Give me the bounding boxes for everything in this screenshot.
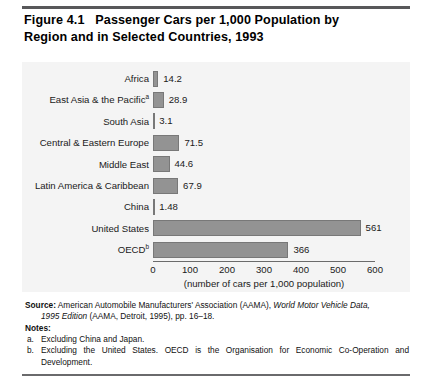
x-axis-tick-label: 0 bbox=[150, 263, 155, 276]
bar-category-label: China bbox=[124, 196, 153, 217]
x-axis-tick-label: 300 bbox=[256, 263, 272, 276]
bar-row: Middle East44.6 bbox=[22, 154, 410, 175]
bar-category-label: Middle East bbox=[99, 154, 153, 175]
bar-value-label: 14.2 bbox=[163, 71, 182, 87]
bar-wrapper: 28.9 bbox=[153, 92, 164, 108]
top-rule bbox=[22, 6, 410, 9]
bar-value-label: 44.6 bbox=[175, 156, 194, 172]
bar-category-label: United States bbox=[91, 218, 153, 239]
x-axis-tick-label: 600 bbox=[367, 263, 383, 276]
note-text: Excluding the United States. OECD is the… bbox=[41, 345, 409, 366]
bar-rows: Africa14.2East Asia & the Pacifica28.9So… bbox=[22, 68, 410, 261]
footnote-marker: a bbox=[145, 93, 149, 100]
bar-row: China1.48 bbox=[22, 196, 410, 217]
source-line-1: Source: American Automobile Manufacturer… bbox=[25, 300, 409, 311]
x-axis-tick-label: 100 bbox=[182, 263, 198, 276]
source-line-2: 1995 Edition (AAMA, Detroit, 1995), pp. … bbox=[25, 311, 409, 322]
bar bbox=[153, 156, 170, 172]
bar-row: South Asia3.1 bbox=[22, 111, 410, 132]
bar-row: United States561 bbox=[22, 218, 410, 239]
source-italic-a: World Motor Vehicle Data, bbox=[273, 300, 370, 310]
bar-value-label: 3.1 bbox=[159, 113, 172, 129]
bar-category-label: Africa bbox=[124, 68, 153, 89]
bar-value-label: 366 bbox=[293, 242, 309, 258]
bar-wrapper: 67.9 bbox=[153, 178, 178, 194]
note-item: a.Excluding China and Japan. bbox=[25, 334, 409, 345]
bar-row: Central & Eastern Europe71.5 bbox=[22, 132, 410, 153]
note-item: b.Excluding the United States. OECD is t… bbox=[25, 345, 409, 367]
x-axis-title: (number of cars per 1,000 population) bbox=[153, 278, 375, 289]
note-text: Excluding China and Japan. bbox=[41, 334, 144, 344]
bar bbox=[153, 113, 155, 129]
bar-chart: Africa14.2East Asia & the Pacifica28.9So… bbox=[22, 62, 410, 292]
bar bbox=[153, 220, 361, 236]
notes-block: Source: American Automobile Manufacturer… bbox=[25, 300, 409, 368]
bar bbox=[153, 242, 288, 258]
figure-title-line-1: Figure 4.1 Passenger Cars per 1,000 Popu… bbox=[24, 12, 414, 29]
bar-wrapper: 14.2 bbox=[153, 71, 158, 87]
bar bbox=[153, 135, 179, 151]
bar-value-label: 71.5 bbox=[184, 135, 203, 151]
bar-row: Africa14.2 bbox=[22, 68, 410, 89]
x-axis-tick-label: 400 bbox=[293, 263, 309, 276]
bar-category-label: OECDb bbox=[118, 239, 153, 260]
bar-wrapper: 1.48 bbox=[153, 199, 154, 215]
bar-wrapper: 71.5 bbox=[153, 135, 179, 151]
x-axis-ticks: 0100200300400500600 bbox=[22, 263, 410, 277]
note-items: a.Excluding China and Japan.b.Excluding … bbox=[25, 334, 409, 368]
bar-wrapper: 44.6 bbox=[153, 156, 170, 172]
bar-value-label: 1.48 bbox=[159, 199, 178, 215]
bottom-rule bbox=[22, 374, 410, 376]
bar bbox=[153, 92, 164, 108]
source-italic-b: 1995 Edition bbox=[41, 311, 87, 321]
bar-category-label: Latin America & Caribbean bbox=[35, 175, 153, 196]
note-marker: b. bbox=[27, 345, 34, 356]
bar-category-label: Central & Eastern Europe bbox=[40, 132, 153, 153]
notes-label: Notes: bbox=[25, 323, 409, 334]
bar-wrapper: 561 bbox=[153, 220, 361, 236]
bar-row: OECDb366 bbox=[22, 239, 410, 260]
bar-row: East Asia & the Pacifica28.9 bbox=[22, 89, 410, 110]
x-axis-tick-label: 500 bbox=[330, 263, 346, 276]
bar-category-label: South Asia bbox=[103, 111, 153, 132]
bar-value-label: 28.9 bbox=[169, 92, 188, 108]
figure-container: Figure 4.1 Passenger Cars per 1,000 Popu… bbox=[0, 0, 432, 382]
figure-title-line-2: Region and in Selected Countries, 1993 bbox=[24, 29, 414, 46]
source-label: Source: bbox=[25, 300, 56, 310]
x-axis-line bbox=[153, 261, 375, 262]
bar-wrapper: 366 bbox=[153, 242, 288, 258]
source-text-a: American Automobile Manufacturers' Assoc… bbox=[56, 300, 273, 310]
source-text-b: (AAMA, Detroit, 1995), pp. 16–18. bbox=[87, 311, 214, 321]
bar-row: Latin America & Caribbean67.9 bbox=[22, 175, 410, 196]
bar-wrapper: 3.1 bbox=[153, 113, 154, 129]
bar-category-label: East Asia & the Pacifica bbox=[49, 89, 153, 110]
bar-value-label: 561 bbox=[366, 220, 382, 236]
note-marker: a. bbox=[27, 334, 34, 345]
x-axis-tick-label: 200 bbox=[219, 263, 235, 276]
bar bbox=[153, 71, 158, 87]
bar-value-label: 67.9 bbox=[183, 178, 202, 194]
figure-title: Figure 4.1 Passenger Cars per 1,000 Popu… bbox=[24, 12, 414, 46]
footnote-marker: b bbox=[145, 243, 149, 250]
bar bbox=[153, 199, 155, 215]
bar bbox=[153, 178, 178, 194]
